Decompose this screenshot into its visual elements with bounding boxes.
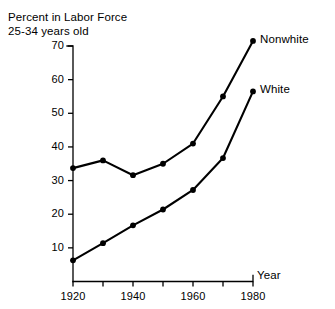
- data-point: [70, 257, 76, 263]
- y-tick-label: 40: [38, 140, 64, 152]
- data-point: [100, 157, 106, 163]
- data-point: [250, 38, 256, 44]
- x-axis-line: [73, 276, 253, 282]
- x-axis-label: Year: [257, 269, 281, 281]
- x-tick-label: 1940: [113, 290, 153, 302]
- data-point: [100, 240, 106, 246]
- data-point: [130, 222, 136, 228]
- series-line-nonwhite: [73, 41, 253, 175]
- axes: [67, 46, 253, 287]
- y-tick-label: 10: [38, 241, 64, 253]
- data-point: [190, 141, 196, 147]
- series-label-white: White: [260, 83, 290, 95]
- y-tick-label: 20: [38, 207, 64, 219]
- data-point: [160, 207, 166, 213]
- series-label-nonwhite: Nonwhite: [260, 33, 309, 45]
- data-point: [70, 165, 76, 171]
- data-point: [220, 94, 226, 100]
- y-tick-label: 60: [38, 73, 64, 85]
- y-tick-label: 50: [38, 106, 64, 118]
- data-point: [250, 89, 256, 95]
- data-point: [160, 161, 166, 167]
- x-tick-label: 1960: [173, 290, 213, 302]
- data-point: [190, 187, 196, 193]
- x-tick-label: 1980: [233, 290, 273, 302]
- data-point: [220, 155, 226, 161]
- y-tick-label: 70: [38, 39, 64, 51]
- data-series: [70, 38, 256, 263]
- y-axis-line: [67, 46, 73, 282]
- data-point: [130, 172, 136, 178]
- labor-force-line-chart: Percent in Labor Force 25-34 years old 1…: [0, 0, 335, 309]
- series-line-white: [73, 91, 253, 260]
- y-tick-label: 30: [38, 174, 64, 186]
- x-tick-label: 1920: [53, 290, 93, 302]
